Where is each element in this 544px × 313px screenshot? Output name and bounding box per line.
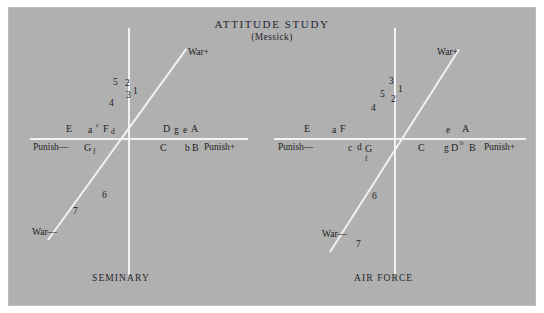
point-label-g: g xyxy=(444,144,449,154)
axis-label-war-minus: War— xyxy=(32,228,57,238)
point-label-d: d xyxy=(111,128,115,136)
axis-label-war-minus: War— xyxy=(322,230,347,240)
axis-label-war-plus: War+ xyxy=(437,48,458,58)
point-number-6: 6 xyxy=(102,191,107,201)
axis-label-war-plus: War+ xyxy=(188,48,209,58)
point-number-1: 1 xyxy=(133,87,138,97)
point-label-b: b xyxy=(185,144,190,154)
axis-label-punish-minus: Punish— xyxy=(278,143,313,153)
point-label-C: C xyxy=(160,143,167,153)
point-number-6: 6 xyxy=(372,192,377,202)
point-number-5: 5 xyxy=(380,90,385,100)
figure-page: ATTITUDE STUDY (Messick) Punish— Punish+… xyxy=(0,0,544,313)
point-label-g: g xyxy=(174,126,179,136)
point-label-a: a xyxy=(332,126,336,136)
point-number-2: 2 xyxy=(125,79,130,89)
axis-label-punish-minus: Punish— xyxy=(33,143,68,153)
point-number-3: 3 xyxy=(126,91,131,101)
panel-seminary: Punish— Punish+ War+ War— E a c F d G f … xyxy=(8,7,272,306)
point-label-G: G xyxy=(84,143,91,153)
point-number-1: 1 xyxy=(398,85,403,95)
point-label-c: c xyxy=(348,144,352,154)
point-label-a: a xyxy=(88,126,92,136)
point-label-A: A xyxy=(191,124,198,134)
point-number-5: 5 xyxy=(113,78,118,88)
point-number-4: 4 xyxy=(109,99,114,109)
point-number-3: 3 xyxy=(389,77,394,87)
point-label-d: d xyxy=(357,143,362,153)
point-label-D: D xyxy=(163,124,170,134)
point-label-E: E xyxy=(304,124,310,134)
point-label-F: F xyxy=(340,124,346,134)
axis-label-punish-plus: Punish+ xyxy=(484,143,515,153)
point-label-c: c xyxy=(96,122,99,129)
figure-plate: ATTITUDE STUDY (Messick) Punish— Punish+… xyxy=(8,7,536,306)
point-label-B: B xyxy=(469,143,476,153)
point-number-7: 7 xyxy=(73,207,78,217)
point-label-e: e xyxy=(183,126,187,136)
point-label-f: f xyxy=(365,155,368,163)
panel-air-force: Punish— Punish+ War+ War— E a F c d G f … xyxy=(272,7,536,306)
point-label-C: C xyxy=(418,143,425,153)
point-label-f: f xyxy=(93,148,96,156)
point-number-7: 7 xyxy=(356,240,361,250)
panel-caption-air-force: AIR FORCE xyxy=(354,273,413,283)
panel-caption-seminary: SEMINARY xyxy=(92,273,150,283)
horizontal-axis xyxy=(30,138,248,140)
point-label-e: e xyxy=(446,126,450,136)
point-label-B: B xyxy=(192,143,199,153)
point-number-4: 4 xyxy=(371,104,376,114)
point-number-2: 2 xyxy=(391,95,396,105)
axis-label-punish-plus: Punish+ xyxy=(204,143,235,153)
point-label-F: F xyxy=(103,124,109,134)
point-label-b: b xyxy=(460,140,464,147)
point-label-A: A xyxy=(462,124,469,134)
point-label-D: D xyxy=(451,143,458,153)
vertical-axis xyxy=(128,28,130,275)
point-label-E: E xyxy=(66,124,72,134)
point-label-G: G xyxy=(365,144,372,154)
